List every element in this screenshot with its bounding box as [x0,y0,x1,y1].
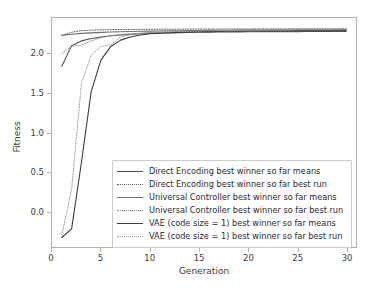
legend-item-1: Direct Encoding best winner so far best … [117,178,346,191]
legend-line-sample [117,219,143,229]
legend-line-sample [117,167,143,177]
legend-line-sample [117,193,143,203]
legend-label: VAE (code size = 1) best winner so far m… [149,217,336,230]
y-axis-label: Fitness [12,102,22,172]
x-axis-label: Generation [51,266,357,276]
y-tick [47,133,51,134]
x-tick [150,248,151,252]
x-tick [100,248,101,252]
y-tick-label: 1.0 [30,128,44,138]
legend-item-5: VAE (code size = 1) best winner so far b… [117,230,346,243]
y-tick [47,93,51,94]
y-tick-label: 2.0 [30,48,44,58]
x-tick [51,248,52,252]
y-tick-label: 0.0 [30,207,44,217]
legend-label: Universal Controller best winner so far … [149,204,343,217]
legend-label: Direct Encoding best winner so far best … [149,178,327,191]
legend-label: Universal Controller best winner so far … [149,191,337,204]
x-tick-label: 25 [292,253,303,263]
legend-item-0: Direct Encoding best winner so far means [117,165,346,178]
legend-item-4: VAE (code size = 1) best winner so far m… [117,217,346,230]
x-tick-label: 30 [342,253,353,263]
y-tick-label: 1.5 [30,88,44,98]
x-tick-label: 15 [194,253,205,263]
legend-line-sample [117,180,143,190]
legend-label: Direct Encoding best winner so far means [149,165,320,178]
legend-item-2: Universal Controller best winner so far … [117,191,346,204]
legend-label: VAE (code size = 1) best winner so far b… [149,230,342,243]
legend: Direct Encoding best winner so far means… [112,160,352,248]
legend-item-3: Universal Controller best winner so far … [117,204,346,217]
x-tick [199,248,200,252]
x-tick-label: 20 [243,253,254,263]
legend-line-sample [117,206,143,216]
x-tick-label: 10 [144,253,155,263]
x-tick-label: 0 [48,253,53,263]
legend-line-sample [117,232,143,242]
y-tick [47,172,51,173]
x-tick-label: 5 [98,253,103,263]
series-line-3 [62,30,346,53]
figure: 051015202530 0.00.51.01.52.0 Generation … [0,0,377,288]
y-tick-label: 0.5 [30,167,44,177]
x-tick [347,248,348,252]
y-tick [47,212,51,213]
x-tick [248,248,249,252]
x-tick [298,248,299,252]
y-tick [47,53,51,54]
